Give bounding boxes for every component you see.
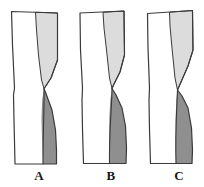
panel-label-b: B [96,169,126,183]
shapes-diagram [0,0,204,187]
panel-label-a: A [24,169,54,183]
figure-container: A B C [0,0,204,187]
panel-label-c: C [164,169,194,183]
